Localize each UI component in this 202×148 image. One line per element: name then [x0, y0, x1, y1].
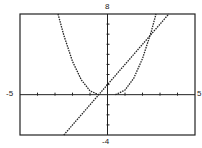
series-parabola-right [115, 14, 156, 95]
series-line [64, 14, 169, 135]
x-min-label: -5 [6, 90, 13, 98]
series-parabola-left [58, 14, 99, 95]
x-max-label: 5 [197, 90, 201, 98]
plot-area [0, 0, 202, 148]
y-max-label: 8 [105, 3, 109, 11]
axes [20, 14, 195, 135]
series-group [58, 14, 169, 135]
y-min-label: -4 [102, 138, 109, 146]
